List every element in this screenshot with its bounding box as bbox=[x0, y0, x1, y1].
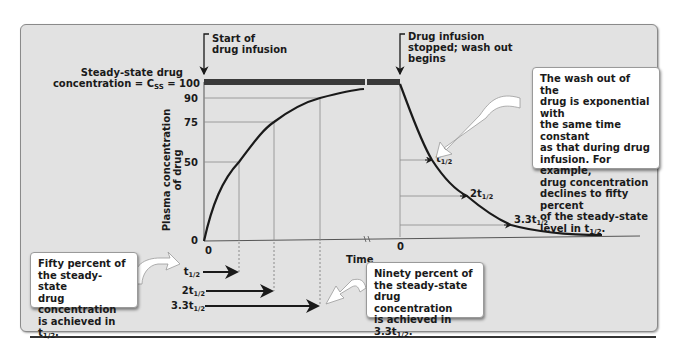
y-tick-90: 90 bbox=[184, 93, 198, 104]
washout-callout: The wash out of the drug is exponential … bbox=[532, 67, 660, 169]
infusion-3.3t-half-label: 3.3t1/2 bbox=[171, 300, 205, 313]
y-tick-0: 0 bbox=[191, 235, 198, 246]
start-label-2: drug infusion bbox=[212, 44, 287, 55]
ninety-callout-pointer bbox=[326, 279, 366, 304]
half-life-droplines bbox=[239, 242, 320, 306]
stop-label-1: Drug infusion bbox=[408, 31, 484, 42]
washout-2t-half-label: 2t1/2 bbox=[470, 188, 493, 201]
infusion-gridlines bbox=[204, 98, 320, 241]
infusion-t-half-label: t1/2 bbox=[184, 266, 200, 279]
washout-callout-pointer bbox=[436, 96, 520, 158]
stop-label-3: begins bbox=[408, 53, 446, 64]
infusion-curve bbox=[204, 89, 364, 241]
fifty-callout-pointer bbox=[134, 252, 180, 284]
steady-state-bar bbox=[204, 79, 400, 85]
ss-label-1: Steady-state drug bbox=[81, 67, 183, 78]
stop-label-2: stopped; wash out bbox=[408, 42, 513, 53]
fifty-percent-callout: Fifty percent of the steady-state drug c… bbox=[30, 252, 138, 308]
ninety-percent-callout: Ninety percent of the steady-state drug … bbox=[366, 262, 484, 318]
infusion-2t-half-label: 2t1/2 bbox=[182, 285, 205, 298]
x-tick-0-washout: 0 bbox=[397, 241, 404, 252]
svg-text:of drug: of drug bbox=[172, 149, 183, 190]
infusion-half-life-arrows bbox=[203, 272, 318, 306]
ss-label-2: concentration = CSS = 100 bbox=[53, 78, 200, 91]
start-label-1: Start of bbox=[212, 33, 256, 44]
y-axis-label: Plasma concentration of drug bbox=[161, 109, 183, 232]
y-tick-75: 75 bbox=[184, 117, 198, 128]
start-infusion-arrow-icon bbox=[204, 34, 209, 74]
svg-text:Plasma concentration: Plasma concentration bbox=[161, 109, 172, 232]
x-tick-0-infusion: 0 bbox=[205, 245, 212, 256]
x-axis bbox=[204, 236, 640, 241]
y-tick-50: 50 bbox=[184, 157, 198, 168]
stop-infusion-arrow-icon bbox=[400, 34, 405, 74]
